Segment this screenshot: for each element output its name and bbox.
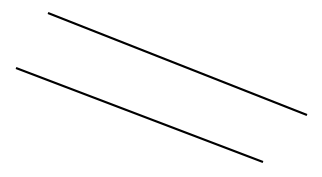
diagram-canvas	[0, 0, 322, 177]
upper-diagonal-line	[48, 13, 307, 115]
parallel-lines-diagram	[0, 0, 322, 177]
